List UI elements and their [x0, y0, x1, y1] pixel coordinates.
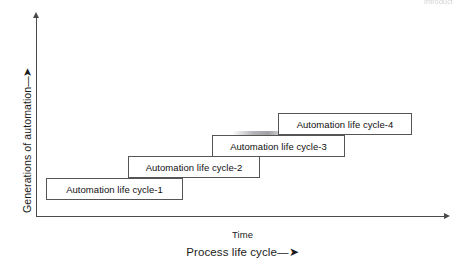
step-box-2: Automation life cycle-2: [128, 156, 260, 178]
x-axis-tick-label-text: Time: [232, 229, 253, 240]
x-axis-line: [36, 216, 448, 217]
running-header: Introduct: [424, 0, 453, 5]
y-axis-title: Generations of automation—➤: [18, 13, 36, 213]
x-axis-tick-label: Time: [0, 229, 459, 240]
x-axis-title-text: Process life cycle: [186, 246, 277, 258]
step-box-1: Automation life cycle-1: [46, 178, 183, 200]
x-axis-arrow-icon: [444, 213, 450, 219]
x-axis-title-arrow-icon: —➤: [277, 246, 299, 258]
step-box-3: Automation life cycle-3: [212, 135, 345, 157]
x-axis-title: Process life cycle—➤: [0, 245, 459, 259]
automation-life-cycle-diagram: Introduct Generations of automation—➤ Au…: [0, 0, 459, 272]
y-axis-title-arrow-icon: —➤: [21, 69, 33, 87]
y-axis-title-text: Generations of automation: [21, 87, 33, 213]
step-box-3-label: Automation life cycle-3: [230, 141, 327, 152]
step-box-4-label: Automation life cycle-4: [297, 119, 394, 130]
step-box-4: Automation life cycle-4: [278, 113, 412, 135]
y-axis-line: [36, 17, 37, 217]
step-box-2-label: Automation life cycle-2: [146, 162, 243, 173]
step-box-1-label: Automation life cycle-1: [66, 184, 163, 195]
